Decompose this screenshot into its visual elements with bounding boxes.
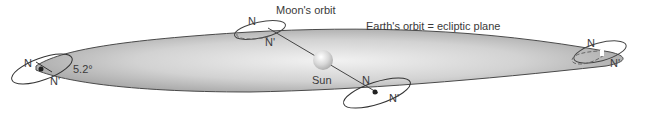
node-n-bottom: N — [362, 75, 370, 86]
node-n-prime-bottom: N' — [389, 93, 399, 104]
earth-bottom — [373, 90, 378, 95]
node-n-prime-top: N' — [265, 37, 275, 48]
earth-right — [600, 50, 604, 56]
node-n-top: N — [248, 16, 256, 27]
sun — [313, 50, 333, 70]
node-n-right: N — [587, 38, 595, 49]
node-n-left: N — [24, 58, 32, 69]
ecliptic-diagram — [0, 0, 645, 114]
moons-orbit-label: Moon's orbit — [276, 5, 336, 16]
node-n-prime-left: N' — [50, 76, 60, 87]
earths-orbit-label: Earth's orbit = ecliptic plane — [366, 21, 500, 32]
sun-label: Sun — [312, 75, 332, 86]
node-n-prime-right: N' — [610, 58, 620, 69]
inclination-angle-label: 5.2° — [73, 64, 93, 75]
earth-left — [39, 67, 44, 72]
